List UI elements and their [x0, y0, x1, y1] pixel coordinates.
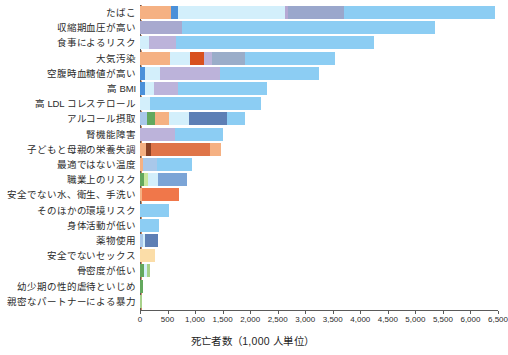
category-label: 幼少期の性的虐待といじめ: [0, 280, 136, 293]
bar-segment: [148, 173, 158, 186]
x-tick-label: 6,000: [460, 315, 480, 325]
bar-segment: [140, 280, 143, 293]
bar-segment: [160, 67, 221, 80]
bar-segment: [245, 52, 336, 65]
category-label: 腎機能障害: [0, 128, 136, 141]
bar-segment: [142, 188, 178, 201]
category-label: たばこ: [0, 6, 136, 19]
stacked-bar[interactable]: [140, 36, 374, 49]
category-label: 安全でないセックス: [0, 249, 136, 262]
bar-segment: [143, 158, 157, 171]
bar-segment: [169, 112, 189, 125]
stacked-bar[interactable]: [140, 249, 155, 262]
category-label: 大気汚染: [0, 52, 136, 65]
bar-segment: [140, 6, 171, 19]
x-tick-mark: [498, 311, 499, 314]
bar-segment: [145, 67, 160, 80]
bar-segment: [140, 219, 159, 232]
bar-segment: [140, 112, 147, 125]
x-tick-label: 5,500: [433, 315, 453, 325]
x-tick-mark: [388, 311, 389, 314]
x-tick-label: 500: [161, 315, 174, 325]
category-label: 食事によるリスク: [0, 36, 136, 49]
bar-segment: [157, 158, 192, 171]
bar-segment: [140, 128, 175, 141]
bar-segment: [140, 249, 155, 262]
x-tick-label: 3,500: [323, 315, 343, 325]
x-axis-ticks: 05001,0001,5002,0002,5003,0003,5004,0004…: [140, 311, 498, 327]
category-label: 最適ではない温度: [0, 158, 136, 171]
stacked-bar[interactable]: [140, 264, 150, 277]
stacked-bar[interactable]: [140, 295, 142, 308]
x-tick-mark: [278, 311, 279, 314]
bar-segment: [175, 128, 222, 141]
bar-segment: [154, 82, 178, 95]
stacked-bar[interactable]: [140, 188, 179, 201]
x-tick-label: 6,500: [488, 315, 508, 325]
stacked-bar[interactable]: [140, 21, 435, 34]
bar-segment: [140, 204, 169, 217]
x-tick-label: 2,500: [268, 315, 288, 325]
bar-segment: [149, 36, 176, 49]
stacked-bar[interactable]: [140, 128, 223, 141]
stacked-bar[interactable]: [140, 173, 187, 186]
stacked-bar[interactable]: [140, 234, 158, 247]
x-tick-label: 4,500: [378, 315, 398, 325]
category-label: そのほかの環境リスク: [0, 204, 136, 217]
category-label: 収縮期血圧が高い: [0, 21, 136, 34]
bar-segment: [220, 67, 319, 80]
stacked-bar[interactable]: [140, 97, 261, 110]
x-tick-mark: [470, 311, 471, 314]
bar-segment: [182, 21, 435, 34]
stacked-bar[interactable]: [140, 143, 221, 156]
bar-segment: [171, 6, 178, 19]
category-label: 空腹時血糖値が高い: [0, 67, 136, 80]
stacked-bar[interactable]: [140, 204, 169, 217]
x-tick-mark: [250, 311, 251, 314]
stacked-bar[interactable]: [140, 67, 319, 80]
bar-segment: [147, 112, 155, 125]
bar-segment: [288, 6, 344, 19]
category-label: 親密なパートナーによる暴力: [0, 295, 136, 308]
bar-segment: [204, 52, 211, 65]
stacked-bar[interactable]: [140, 6, 495, 19]
category-label: アルコール摂取: [0, 112, 136, 125]
bar-segment: [140, 295, 142, 308]
x-tick-label: 5,000: [405, 315, 425, 325]
bar-segment: [147, 264, 150, 277]
category-label: 身体活動が低い: [0, 219, 136, 232]
category-label-list: たばこ収縮期血圧が高い食事によるリスク大気汚染空腹時血糖値が高い高 BMI高 L…: [0, 5, 136, 310]
stacked-bar[interactable]: [140, 82, 267, 95]
x-tick-label: 4,000: [350, 315, 370, 325]
bar-segment: [140, 36, 149, 49]
stacked-bar[interactable]: [140, 219, 159, 232]
category-label: 安全でない水、衛生、手洗い: [0, 188, 136, 201]
bar-segment: [189, 112, 227, 125]
bar-segment: [151, 143, 210, 156]
category-label: 薬物使用: [0, 234, 136, 247]
stacked-bar[interactable]: [140, 158, 192, 171]
bar-segment: [176, 36, 374, 49]
x-tick-mark: [360, 311, 361, 314]
bar-segment: [212, 52, 245, 65]
plot-area: [140, 5, 498, 310]
stacked-bar[interactable]: [140, 112, 245, 125]
bar-segment: [155, 112, 168, 125]
stacked-bar[interactable]: [140, 52, 335, 65]
category-label: 高 LDL コレステロール: [0, 97, 136, 110]
x-tick-label: 2,000: [240, 315, 260, 325]
bar-segment: [150, 97, 261, 110]
bar-segment: [178, 6, 285, 19]
x-tick-label: 1,500: [213, 315, 233, 325]
x-tick-mark: [195, 311, 196, 314]
x-tick-mark: [168, 311, 169, 314]
bar-segment: [145, 82, 154, 95]
x-tick-mark: [415, 311, 416, 314]
bar-segment: [190, 52, 205, 65]
x-tick-mark: [140, 311, 141, 314]
bar-segment: [210, 143, 221, 156]
bar-segment: [178, 82, 267, 95]
stacked-bar[interactable]: [140, 280, 143, 293]
x-tick-label: 3,000: [295, 315, 315, 325]
